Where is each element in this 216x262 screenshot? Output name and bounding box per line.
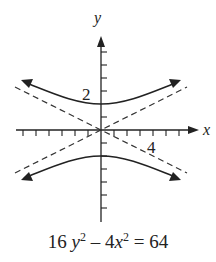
eq-coef-a: 16 <box>48 231 67 252</box>
eq-var-x: x <box>115 231 123 252</box>
x-axis-label: x <box>203 122 210 138</box>
graph-canvas <box>0 0 216 262</box>
eq-minus: – <box>91 231 101 252</box>
eq-equals: = <box>134 231 145 252</box>
eq-var-y: y <box>72 231 80 252</box>
eq-rhs: 64 <box>149 231 168 252</box>
eq-coef-b: 4 <box>105 231 115 252</box>
y-axis-label: y <box>94 10 101 26</box>
eq-exp-1: 2 <box>80 230 86 244</box>
x-tick-label: 4 <box>147 139 156 156</box>
y-tick-label: 2 <box>82 86 91 103</box>
eq-exp-2: 2 <box>123 230 129 244</box>
equation-caption: 16 y2 – 4x2 = 64 <box>0 230 216 253</box>
x-axis <box>16 126 199 136</box>
